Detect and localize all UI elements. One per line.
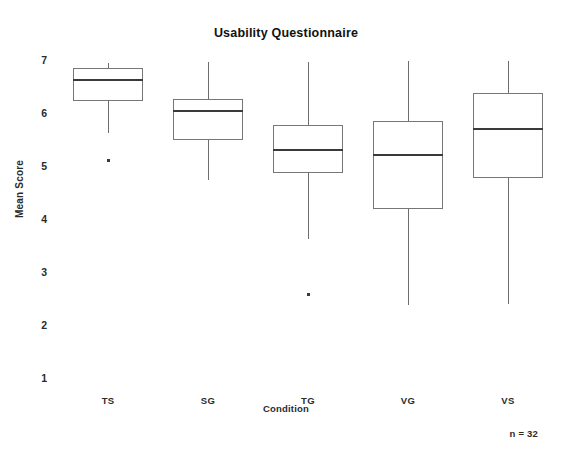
- x-axis-title: Condition: [0, 403, 572, 414]
- y-tick-label: 7: [41, 54, 47, 66]
- upper-whisker: [408, 61, 409, 121]
- box-iqr: [173, 99, 243, 140]
- box-plot-vs[interactable]: VS: [473, 60, 543, 378]
- box-iqr: [473, 93, 543, 178]
- lower-whisker: [108, 101, 109, 132]
- outlier-point: [307, 293, 310, 296]
- upper-whisker: [508, 61, 509, 93]
- chart-title: Usability Questionnaire: [0, 26, 572, 40]
- box-plot-vg[interactable]: VG: [373, 60, 443, 378]
- box-plot-ts[interactable]: TS: [73, 60, 143, 378]
- median-line: [473, 128, 543, 130]
- upper-whisker: [308, 62, 309, 125]
- y-tick-label: 2: [41, 319, 47, 331]
- median-line: [373, 154, 443, 156]
- y-axis-title: Mean Score: [14, 160, 25, 218]
- y-tick-label: 4: [41, 213, 47, 225]
- y-tick-label: 1: [41, 372, 47, 384]
- median-line: [73, 79, 143, 81]
- box-iqr: [373, 121, 443, 210]
- y-tick-label: 3: [41, 266, 47, 278]
- box-plot-sg[interactable]: SG: [173, 60, 243, 378]
- median-line: [173, 110, 243, 112]
- lower-whisker: [208, 140, 209, 180]
- y-tick-label: 5: [41, 160, 47, 172]
- box-iqr: [73, 68, 143, 101]
- y-tick-label: 6: [41, 107, 47, 119]
- median-line: [273, 149, 343, 151]
- upper-whisker: [208, 62, 209, 99]
- lower-whisker: [408, 209, 409, 305]
- lower-whisker: [508, 178, 509, 304]
- chart-figure: Usability Questionnaire Mean Score 76543…: [0, 0, 572, 466]
- outlier-point: [107, 159, 110, 162]
- plot-area: 7654321 TSSGTGVGVS: [58, 60, 558, 378]
- sample-size-annotation: n = 32: [510, 428, 538, 439]
- lower-whisker: [308, 173, 309, 239]
- box-plot-tg[interactable]: TG: [273, 60, 343, 378]
